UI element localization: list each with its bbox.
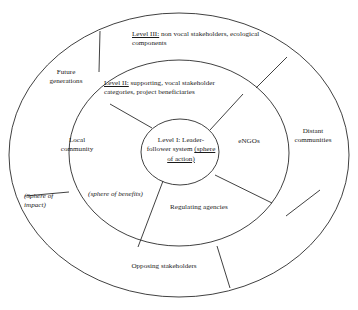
segment-label-regulating-agencies: Regulating agencies	[170, 203, 258, 212]
segment-label-local-community: Local community	[49, 136, 105, 155]
divider-outer-upper-left	[99, 31, 100, 72]
divider-outer-bottom	[217, 246, 230, 288]
sphere-of-impact-label: (Sphere of impact)	[24, 192, 74, 211]
segment-label-engos: eNGOs	[227, 137, 271, 146]
segment-label-distant-communities: Distant communities	[283, 127, 343, 146]
level-3-label: Level III: non vocal stakeholders, ecolo…	[132, 30, 282, 49]
level-1-prefix: Level I:	[158, 136, 182, 144]
divider-inner-lower-right	[215, 175, 272, 203]
divider-inner-upper-left	[110, 104, 152, 128]
segment-label-future-generations: Future generations	[41, 68, 91, 87]
segment-label-opposing-stakeholders: Opposing stakeholders	[113, 262, 215, 271]
stakeholder-sphere-diagram: Level III: non vocal stakeholders, ecolo…	[0, 0, 358, 310]
divider-outer-right	[286, 190, 320, 216]
level-2-label: Level II: supporting, vocal stakeholder …	[104, 79, 226, 98]
level-1-label: Level I: Leader-follower system (sphere …	[146, 136, 216, 164]
sphere-of-benefits-label: (sphere of benefits)	[88, 190, 168, 199]
divider-inner-upper-right	[210, 94, 243, 130]
level-2-prefix: Level II:	[104, 79, 129, 87]
divider-outer-upper-right	[256, 57, 287, 88]
level-3-prefix: Level III:	[132, 30, 159, 38]
